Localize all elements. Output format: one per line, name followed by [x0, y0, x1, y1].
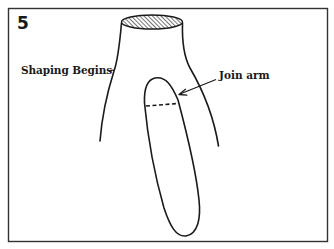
join-arm-label: Join arm: [219, 70, 270, 81]
knitting-diagram: [0, 0, 334, 249]
figure-frame: [9, 9, 328, 242]
body-left-edge: [100, 23, 122, 141]
shaping-begins-label: Shaping Begins: [21, 65, 112, 76]
neck-opening-hatched: [122, 15, 183, 29]
join-dashed-line: [146, 104, 178, 107]
step-number: 5: [17, 15, 29, 32]
arm-outline: [144, 78, 199, 236]
body-right-edge: [182, 23, 218, 146]
